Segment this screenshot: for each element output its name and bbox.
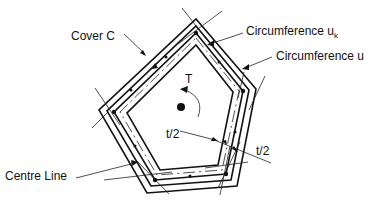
torque-arrow [185,90,200,117]
torsion-section-diagram: Cover C Circumference uk Circumference u… [0,0,381,206]
centre-line-leader [76,163,135,178]
cover-arrowhead-icon [140,50,146,56]
t2-leader [180,131,215,140]
t2-label-outer: t/2 [256,144,270,158]
cover-leader [124,34,145,54]
t2-arrowhead-icon [211,137,218,141]
t2-label-inner: t/2 [166,127,180,141]
centre-line-label: Centre Line [5,169,67,183]
circumference-uk-leader [210,33,243,44]
torque-arrowhead-icon [180,86,188,93]
extension-line [249,76,265,110]
cover-label: Cover C [71,29,115,43]
centroid-dot [177,103,185,111]
circumference-uk-label: Circumference uk [246,24,339,40]
extension-line [136,160,169,194]
circumference-u-leader [245,57,272,68]
torque-label: T [185,72,193,86]
circumference-u-label: Circumference u [276,49,364,63]
circumference-u-arrowhead-icon [242,64,249,70]
